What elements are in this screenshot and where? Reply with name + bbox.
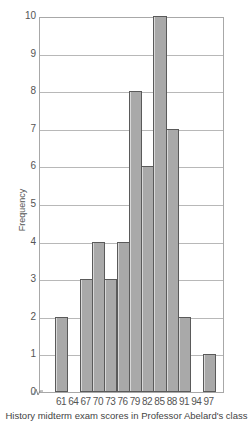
y-tick-label: 10 — [22, 11, 36, 21]
histogram-bar — [117, 242, 130, 392]
y-tick-label: 7 — [22, 124, 36, 134]
histogram-bar — [104, 279, 117, 392]
histogram-bar — [129, 91, 142, 392]
x-tick-label: 73 — [104, 396, 116, 407]
histogram-bar — [178, 317, 191, 392]
x-tick-label: 64 — [67, 396, 79, 407]
x-tick-label: 97 — [203, 396, 215, 407]
gridline — [40, 55, 223, 56]
x-tick-label: 88 — [166, 396, 178, 407]
x-tick-label: 61 — [55, 396, 67, 407]
histogram-bar — [203, 354, 216, 392]
axis-break-icon — [31, 386, 43, 396]
y-tick-label: 1 — [22, 349, 36, 359]
histogram-bar — [80, 279, 93, 392]
y-tick-label: 9 — [22, 49, 36, 59]
y-axis-label: Frequency — [17, 180, 27, 240]
histogram-bar — [153, 16, 166, 392]
histogram-bar — [141, 166, 154, 392]
y-tick-label: 2 — [22, 312, 36, 322]
x-tick-label: 91 — [178, 396, 190, 407]
x-tick-label: 76 — [117, 396, 129, 407]
x-tick-label: 79 — [129, 396, 141, 407]
x-tick-label: 85 — [153, 396, 165, 407]
histogram-bar — [92, 242, 105, 392]
x-axis-label: History midterm exam scores in Professor… — [4, 410, 249, 421]
x-tick-label: 94 — [190, 396, 202, 407]
y-tick-label: 8 — [22, 86, 36, 96]
x-tick-label: 70 — [92, 396, 104, 407]
plot-area — [39, 17, 224, 393]
histogram-bar — [55, 317, 68, 392]
y-tick-label: 6 — [22, 161, 36, 171]
y-tick-label: 3 — [22, 274, 36, 284]
x-tick-label: 67 — [80, 396, 92, 407]
histogram-bar — [166, 129, 179, 392]
x-tick-label: 82 — [141, 396, 153, 407]
